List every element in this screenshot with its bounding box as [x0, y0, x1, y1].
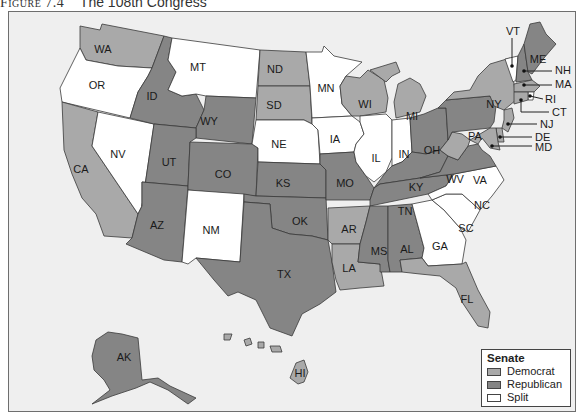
- label-OH: OH: [424, 144, 441, 156]
- state-FL[interactable]: [400, 258, 490, 328]
- state-KS[interactable]: [256, 162, 326, 198]
- label-SC: SC: [458, 222, 473, 234]
- label-MA: MA: [555, 78, 572, 90]
- label-KY: KY: [409, 181, 424, 193]
- label-VT: VT: [506, 25, 520, 37]
- legend-label: Split: [507, 391, 528, 404]
- label-AK: AK: [117, 351, 132, 363]
- label-NM: NM: [202, 224, 219, 236]
- legend-title: Senate: [487, 352, 565, 365]
- label-IA: IA: [330, 133, 341, 145]
- label-WA: WA: [94, 43, 112, 55]
- label-WI: WI: [358, 98, 371, 110]
- legend-item-split: Split: [487, 391, 565, 404]
- state-SD[interactable]: [256, 86, 312, 124]
- label-CT: CT: [552, 106, 567, 118]
- label-OR: OR: [89, 79, 106, 91]
- state-MT[interactable]: [168, 38, 260, 98]
- label-TN: TN: [398, 205, 413, 217]
- label-CO: CO: [215, 168, 232, 180]
- label-NV: NV: [110, 148, 126, 160]
- state-NJ[interactable]: [502, 108, 514, 132]
- label-IL: IL: [371, 152, 380, 164]
- legend: Senate Democrat Republican Split: [481, 349, 571, 407]
- label-KS: KS: [276, 177, 291, 189]
- state-ND[interactable]: [258, 50, 310, 86]
- state-ME[interactable]: [524, 22, 556, 74]
- label-HI: HI: [295, 367, 306, 379]
- label-MD: MD: [535, 141, 552, 153]
- legend-item-democrat: Democrat: [487, 365, 565, 378]
- label-MS: MS: [371, 245, 388, 257]
- state-AK[interactable]: [92, 332, 196, 404]
- label-MT: MT: [190, 61, 206, 73]
- label-FL: FL: [461, 293, 474, 305]
- label-WV: WV: [446, 173, 464, 185]
- label-IN: IN: [399, 148, 410, 160]
- label-MN: MN: [317, 82, 334, 94]
- legend-label: Republican: [507, 378, 562, 391]
- label-SD: SD: [266, 99, 281, 111]
- label-TX: TX: [277, 268, 292, 280]
- label-ME: ME: [530, 53, 547, 65]
- label-RI: RI: [545, 93, 556, 105]
- label-AZ: AZ: [150, 219, 164, 231]
- legend-swatch-republican: [487, 381, 501, 389]
- label-MO: MO: [336, 177, 354, 189]
- label-MI: MI: [406, 110, 418, 122]
- label-PA: PA: [468, 130, 483, 142]
- label-ID: ID: [147, 90, 158, 102]
- label-AR: AR: [341, 223, 356, 235]
- label-GA: GA: [432, 240, 449, 252]
- label-NJ: NJ: [540, 118, 553, 130]
- legend-label: Democrat: [507, 365, 555, 378]
- label-NE: NE: [271, 138, 286, 150]
- label-NH: NH: [555, 64, 571, 76]
- label-CA: CA: [73, 163, 89, 175]
- legend-swatch-democrat: [487, 368, 501, 376]
- label-ND: ND: [267, 63, 283, 75]
- label-WY: WY: [200, 115, 218, 127]
- label-NC: NC: [474, 199, 490, 211]
- legend-item-republican: Republican: [487, 378, 565, 391]
- label-VA: VA: [473, 174, 488, 186]
- legend-swatch-split: [487, 394, 501, 402]
- label-OK: OK: [292, 215, 309, 227]
- label-LA: LA: [342, 262, 356, 274]
- label-UT: UT: [162, 156, 177, 168]
- label-AL: AL: [400, 243, 413, 255]
- label-NY: NY: [486, 98, 502, 110]
